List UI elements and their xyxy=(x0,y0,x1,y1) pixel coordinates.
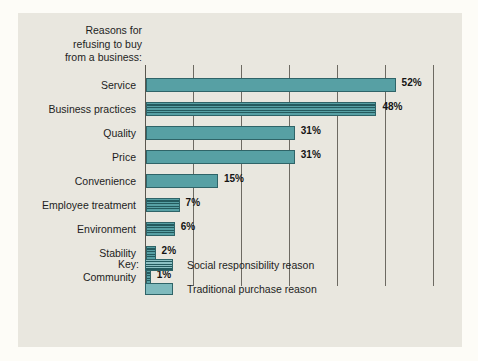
bar-track: 31% xyxy=(146,121,445,145)
chart-panel: Reasons for refusing to buy from a busin… xyxy=(18,13,462,347)
bar xyxy=(146,174,218,188)
bar-value-label: 31% xyxy=(301,125,321,136)
bar xyxy=(146,150,295,164)
category-label: Price xyxy=(18,145,136,169)
category-label: Convenience xyxy=(18,169,136,193)
category-label: Employee treatment xyxy=(18,193,136,217)
chart-title: Reasons for refusing to buy from a busin… xyxy=(28,24,142,65)
legend-title: Key: xyxy=(118,258,139,270)
bar-value-label: 15% xyxy=(224,173,244,184)
bar-track: 52% xyxy=(146,73,445,97)
bar-track: 6% xyxy=(146,217,445,241)
chart-row: Quality31% xyxy=(18,121,445,145)
bar-track: 31% xyxy=(146,145,445,169)
bar-value-label: 2% xyxy=(162,245,176,256)
chart-row: Employee treatment7% xyxy=(18,193,445,217)
legend-swatch-striped-icon xyxy=(145,259,173,271)
category-label: Environment xyxy=(18,217,136,241)
category-label: Business practices xyxy=(18,97,136,121)
bar-track: 15% xyxy=(146,169,445,193)
plot-area: Service52%Business practices48%Quality31… xyxy=(145,65,445,286)
chart-row: Service52% xyxy=(18,73,445,97)
bar-value-label: 52% xyxy=(402,77,422,88)
bar xyxy=(146,270,151,284)
category-label: Quality xyxy=(18,121,136,145)
bar xyxy=(146,198,180,212)
chart-row: Business practices48% xyxy=(18,97,445,121)
chart-row: Convenience15% xyxy=(18,169,445,193)
legend-label-social: Social responsibility reason xyxy=(187,256,314,274)
chart-row: Price31% xyxy=(18,145,445,169)
bar-track: 7% xyxy=(146,193,445,217)
legend-swatch-solid-icon xyxy=(145,283,173,295)
bar xyxy=(146,246,156,260)
category-label: Service xyxy=(18,73,136,97)
bar xyxy=(146,102,376,116)
legend-label-traditional: Traditional purchase reason xyxy=(187,280,317,298)
bar xyxy=(146,126,295,140)
bar-value-label: 31% xyxy=(301,149,321,160)
bar xyxy=(146,222,175,236)
bar-value-label: 7% xyxy=(186,197,200,208)
bar-track: 48% xyxy=(146,97,445,121)
bar-value-label: 48% xyxy=(382,101,402,112)
bar xyxy=(146,78,396,92)
bar-value-label: 6% xyxy=(181,221,195,232)
chart-row: Environment6% xyxy=(18,217,445,241)
